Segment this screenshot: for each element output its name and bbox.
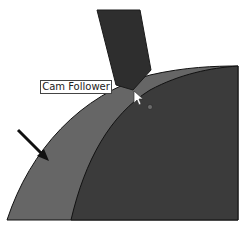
point-marker-icon	[148, 105, 153, 110]
cam-diagram	[0, 0, 249, 227]
cam-follower[interactable]	[97, 10, 151, 90]
cad-viewport: Cam Follower	[0, 0, 249, 227]
tooltip-label: Cam Follower	[40, 80, 112, 94]
pointer-arrow-icon	[18, 130, 49, 161]
